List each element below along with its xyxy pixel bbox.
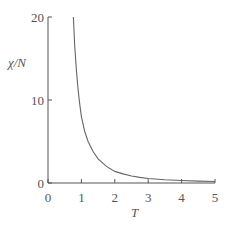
x-tick-label: 0 (45, 190, 52, 205)
x-tick-label: 4 (178, 190, 185, 205)
ticks: 01234501020 (31, 10, 218, 206)
y-tick-label: 10 (31, 93, 44, 108)
y-tick-label: 20 (31, 10, 44, 25)
x-tick-label: 5 (212, 190, 219, 205)
x-axis-label: T (131, 205, 139, 220)
y-axis-label: χ/N (6, 55, 27, 70)
chart: 01234501020 χ/N T (0, 0, 228, 225)
x-tick-label: 1 (78, 190, 85, 205)
x-tick-label: 2 (112, 190, 119, 205)
data-curve (73, 17, 215, 182)
x-tick-label: 3 (145, 190, 152, 205)
axes (48, 17, 215, 183)
y-tick-label: 0 (38, 176, 45, 191)
